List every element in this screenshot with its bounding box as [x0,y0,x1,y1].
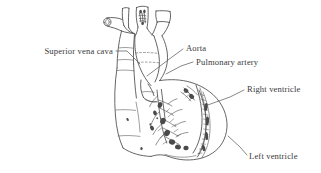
leader-pulmonary-artery [166,62,193,74]
label-pulmonary-artery: Pulmonary artery [196,57,259,67]
label-superior-vena-cava: Superior vena cava [44,46,113,56]
aorta-and-pulmonary-trunk [135,36,168,102]
label-aorta: Aorta [186,43,206,53]
label-left-ventricle: Left ventricle [249,151,298,161]
heart-anatomy-illustration: Superior vena cava Aorta Pulmonary arter… [0,0,321,173]
leader-left-ventricle [228,136,247,155]
coronary-arteries-upper-right [181,86,198,101]
left-common-carotid-artery [122,8,129,28]
great-vessels-group [104,6,171,36]
label-right-ventricle: Right ventricle [247,84,301,94]
coronary-arteries-central [149,89,189,150]
left-subclavian-artery [156,11,171,23]
brachiocephalic-stub [104,18,122,31]
central-great-vessel [136,6,148,28]
left-ventricle-hatched-band [197,90,210,157]
heart-diagram-figure: Superior vena cava Aorta Pulmonary arter… [0,0,321,173]
right-atrium [115,64,158,156]
